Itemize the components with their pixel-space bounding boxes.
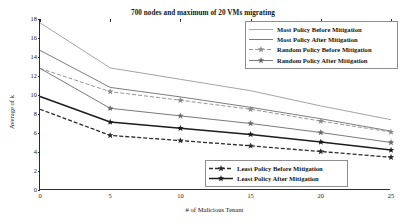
legend-item[interactable]: Least Policy After Mitigation bbox=[208, 173, 344, 183]
x-tick-label: 0 bbox=[38, 193, 41, 199]
legend-bottom: Least Policy Before MitigationLeast Poli… bbox=[205, 160, 348, 187]
data-point-marker bbox=[247, 131, 253, 137]
x-tick-mark bbox=[40, 19, 41, 22]
y-axis-label: Average of k bbox=[8, 95, 15, 129]
y-tick-label: 10 bbox=[31, 92, 37, 98]
legend-label: Most Policy After Mitigation bbox=[277, 36, 358, 43]
x-tick-mark bbox=[180, 19, 181, 22]
chart-figure: 700 nodes and maximum of 20 VMs migratin… bbox=[0, 0, 406, 224]
x-tick-label: 5 bbox=[109, 193, 112, 199]
data-point-marker bbox=[177, 137, 183, 143]
legend-line-swatch bbox=[248, 45, 274, 54]
chart-title: 700 nodes and maximum of 20 VMs migratin… bbox=[0, 9, 406, 17]
y-tick-label: 18 bbox=[31, 16, 37, 22]
data-point-marker bbox=[247, 142, 253, 148]
x-tick-label: 20 bbox=[318, 193, 324, 199]
series-3 bbox=[40, 68, 394, 145]
legend-label: Least Policy After Mitigation bbox=[237, 175, 319, 182]
y-tick-label: 12 bbox=[31, 73, 37, 79]
legend-line-swatch bbox=[248, 56, 274, 65]
data-point-marker bbox=[177, 97, 183, 103]
legend-label: Random Policy After Mitigation bbox=[277, 57, 368, 64]
legend-label: Most Policy Before Mitigation bbox=[277, 26, 362, 33]
y-tick-mark bbox=[38, 133, 41, 134]
data-point-marker bbox=[107, 119, 113, 125]
x-tick-label: 15 bbox=[247, 193, 253, 199]
data-point-marker bbox=[318, 139, 324, 145]
x-axis-label: # of Malicious Tenant bbox=[39, 206, 390, 213]
y-tick-mark bbox=[38, 38, 41, 39]
data-point-marker bbox=[107, 88, 113, 94]
legend-line-swatch bbox=[248, 25, 274, 34]
data-point-marker bbox=[247, 120, 253, 126]
x-tick-label: 10 bbox=[177, 193, 183, 199]
y-tick-label: 14 bbox=[31, 54, 37, 60]
legend-line-swatch bbox=[208, 164, 234, 173]
y-tick-label: 16 bbox=[31, 35, 37, 41]
data-point-marker bbox=[388, 147, 394, 153]
legend-label: Random Policy Before Mitigation bbox=[277, 46, 372, 53]
y-tick-mark bbox=[38, 76, 41, 77]
data-point-marker bbox=[318, 129, 324, 135]
legend-line-swatch bbox=[248, 35, 274, 44]
data-point-marker bbox=[107, 105, 113, 111]
legend-item[interactable]: Most Policy After Mitigation bbox=[248, 34, 394, 44]
data-point-marker bbox=[318, 148, 324, 154]
legend-top: Most Policy Before MitigationMost Policy… bbox=[245, 21, 398, 69]
data-point-marker bbox=[388, 154, 394, 160]
y-tick-mark bbox=[38, 171, 41, 172]
data-point-marker bbox=[388, 129, 394, 135]
legend-label: Least Policy Before Mitigation bbox=[237, 165, 323, 172]
legend-item[interactable]: Least Policy Before Mitigation bbox=[208, 163, 344, 173]
legend-item[interactable]: Random Policy Before Mitigation bbox=[248, 45, 394, 55]
y-tick-mark bbox=[38, 114, 41, 115]
y-tick-mark bbox=[38, 57, 41, 58]
legend-item[interactable]: Random Policy After Mitigation bbox=[248, 55, 394, 65]
y-tick-mark bbox=[38, 95, 41, 96]
data-point-marker bbox=[177, 125, 183, 131]
y-tick-mark bbox=[38, 152, 41, 153]
x-tick-mark bbox=[110, 19, 111, 22]
data-point-marker bbox=[177, 113, 183, 119]
data-point-marker bbox=[107, 132, 113, 138]
series-4 bbox=[40, 109, 394, 160]
x-tick-label: 25 bbox=[388, 193, 394, 199]
legend-item[interactable]: Most Policy Before Mitigation bbox=[248, 24, 394, 34]
legend-line-swatch bbox=[208, 174, 234, 183]
data-point-marker bbox=[388, 139, 394, 145]
